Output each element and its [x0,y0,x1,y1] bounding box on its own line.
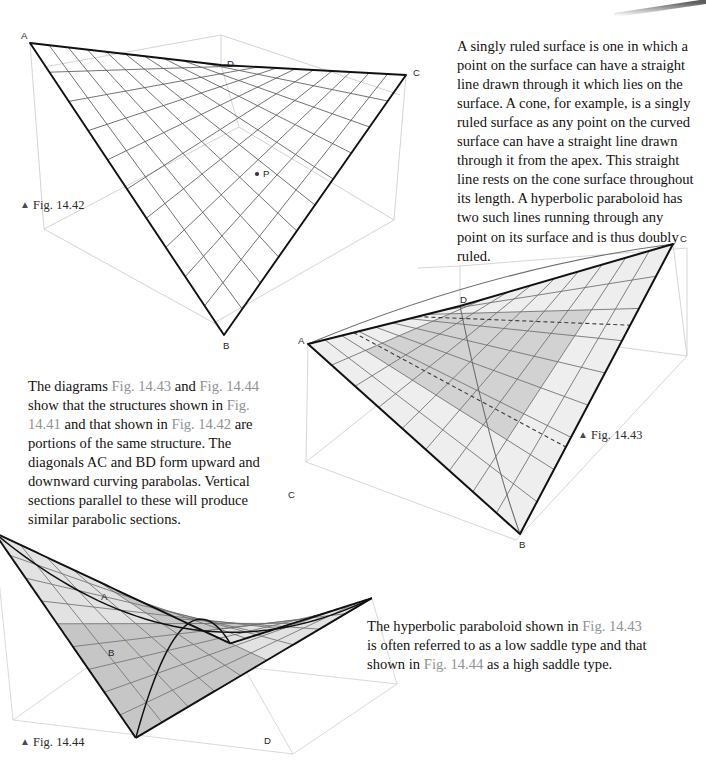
text-run: and [171,378,199,394]
vertex-label-A: A [21,30,28,41]
vertex-label-D: D [227,58,234,69]
figure-14-44-caption: ▲Fig. 14.44 [20,735,85,750]
guide-vertical-0 [306,344,308,462]
text-run: show that the structures shown in [28,397,227,413]
text-run: A singly ruled surface is one in which a… [457,38,694,264]
caption-label: Fig. 14.42 [33,198,85,212]
surface-shading [0,533,372,738]
figure-reference: Fig. 14.43 [111,378,171,394]
guide-vertical-0 [0,533,13,720]
caption-caret-icon: ▲ [20,736,30,747]
figure-14-43-caption: ▲Fig. 14.43 [578,428,643,443]
page-curl-artifact [614,0,706,16]
paragraph-middle: The diagrams Fig. 14.43 and Fig. 14.44 s… [28,377,282,530]
vertex-label-B: B [223,340,229,351]
guide-vertical-1 [221,65,239,127]
rule-line-v-5 [127,70,314,189]
guide-vertical-2 [394,75,406,220]
figure-14-42-caption: ▲Fig. 14.42 [20,198,85,213]
paragraph-bottom: The hyperbolic paraboloid shown in Fig. … [367,617,655,674]
text-run: as a high saddle type. [483,656,612,672]
document-page: ABCDP ▲Fig. 14.42 ABCD ▲Fig. 14.43 ABCD … [0,0,706,762]
surface-shading [308,244,673,534]
vertex-label-D: D [460,294,467,305]
caption-label: Fig. 14.43 [591,428,643,442]
figure-reference: Fig. 14.44 [199,378,259,394]
caption-caret-icon: ▲ [20,199,30,210]
vertex-label-B: B [519,539,525,550]
text-run: and that shown in [61,416,172,432]
caption-label: Fig. 14.44 [33,735,85,749]
text-run: are portions of the same structure. The … [28,416,260,527]
figure-reference: Fig. 14.43 [582,618,642,634]
vertex-label-A: A [101,591,108,602]
rule-line-v-1 [49,66,239,72]
figure-reference: Fig. 14.42 [172,416,232,432]
rule-line-v-2 [69,67,258,101]
vertex-label-C: C [413,67,420,78]
vertex-label-B: B [108,647,114,658]
vertex-label-C: C [288,489,295,500]
surface-point-p-marker [255,172,259,176]
caption-caret-icon: ▲ [578,429,588,440]
paragraph-intro: A singly ruled surface is one in which a… [457,37,695,266]
vertex-label-A: A [298,335,305,346]
rule-line-v-7 [166,72,351,247]
text-run: The diagrams [28,378,111,394]
figure-reference: Fig. 14.44 [424,656,484,672]
vertex-label-D: D [264,735,271,746]
text-run: The hyperbolic paraboloid shown in [367,618,582,634]
rule-line-v-3 [88,68,276,131]
vertex-label-P: P [263,168,269,179]
